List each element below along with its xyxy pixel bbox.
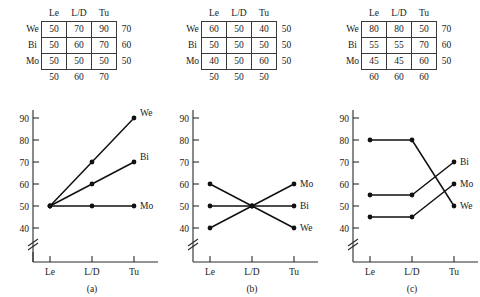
y-tick-group bbox=[353, 118, 359, 228]
chart-c-svg: 90 80 70 60 50 40 Le L/D Tu bbox=[320, 100, 480, 297]
contingency-table-b: Le L/D Tu We 60 50 40 50 Bi 50 50 50 bbox=[184, 6, 296, 85]
col-header: Le bbox=[42, 6, 67, 22]
row-total: 50 bbox=[277, 22, 297, 38]
table-total-row: 50 60 70 bbox=[24, 70, 136, 86]
table-cell: 50 bbox=[412, 22, 437, 38]
x-tick-group bbox=[210, 256, 294, 262]
data-point bbox=[410, 138, 415, 143]
corner-cell bbox=[344, 6, 362, 22]
data-point bbox=[452, 182, 457, 187]
y-tick-label: 60 bbox=[20, 180, 30, 190]
col-header: Tu bbox=[92, 6, 117, 22]
col-header: Le bbox=[362, 6, 387, 22]
table-row: Bi 50 50 50 50 bbox=[184, 38, 296, 54]
y-tick-label: 80 bbox=[20, 136, 30, 146]
x-tick-label: Le bbox=[205, 267, 215, 277]
data-point bbox=[452, 204, 457, 209]
x-tick-group bbox=[50, 256, 134, 262]
data-point bbox=[368, 193, 373, 198]
x-tick-label: L/D bbox=[404, 267, 419, 277]
panel-caption-c: (c) bbox=[407, 284, 418, 295]
data-point bbox=[368, 138, 373, 143]
contingency-table-a: Le L/D Tu We 50 70 90 70 Bi 50 60 70 bbox=[24, 6, 136, 85]
panel-c: Le L/D Tu We 80 80 50 70 Bi 55 55 70 bbox=[320, 0, 480, 297]
row-total: 50 bbox=[277, 54, 297, 70]
col-total: 50 bbox=[227, 70, 252, 86]
table-row: Mo 45 45 60 50 bbox=[344, 54, 456, 70]
row-total-header bbox=[117, 6, 137, 22]
grand-total bbox=[117, 70, 137, 86]
row-label: We bbox=[344, 22, 362, 38]
y-tick-group bbox=[33, 118, 39, 228]
data-point bbox=[452, 160, 457, 165]
table-row: We 60 50 40 50 bbox=[184, 22, 296, 38]
series-end-label-bi: Bi bbox=[140, 152, 149, 162]
table-cell: 50 bbox=[42, 38, 67, 54]
series-end-label-mo: Mo bbox=[460, 179, 473, 189]
x-tick-label: L/D bbox=[84, 267, 99, 277]
table-cell: 70 bbox=[67, 22, 92, 38]
col-total: 60 bbox=[362, 70, 387, 86]
chart-c: 90 80 70 60 50 40 Le L/D Tu bbox=[320, 100, 480, 297]
table-row: Bi 55 55 70 60 bbox=[344, 38, 456, 54]
table-cell: 45 bbox=[362, 54, 387, 70]
grand-total bbox=[437, 70, 457, 86]
x-tick-label: Le bbox=[45, 267, 55, 277]
contingency-table-c-wrapper: Le L/D Tu We 80 80 50 70 Bi 55 55 70 bbox=[320, 6, 480, 85]
table-header-row: Le L/D Tu bbox=[344, 6, 456, 22]
y-tick-label: 50 bbox=[340, 202, 350, 212]
series-end-label-mo: Mo bbox=[140, 201, 153, 211]
y-tick-label: 40 bbox=[180, 224, 190, 234]
table-cell: 50 bbox=[227, 22, 252, 38]
table-cell: 50 bbox=[92, 54, 117, 70]
row-label: Mo bbox=[344, 54, 362, 70]
y-tick-label: 70 bbox=[340, 158, 350, 168]
table-row: We 80 80 50 70 bbox=[344, 22, 456, 38]
col-total: 50 bbox=[202, 70, 227, 86]
x-tick-label: Tu bbox=[289, 267, 299, 277]
x-tick-label: L/D bbox=[244, 267, 259, 277]
x-tick-group bbox=[370, 256, 454, 262]
row-total: 60 bbox=[437, 38, 457, 54]
table-cell: 70 bbox=[92, 38, 117, 54]
table-cell: 60 bbox=[67, 38, 92, 54]
table-cell: 70 bbox=[412, 38, 437, 54]
y-tick-label: 70 bbox=[180, 158, 190, 168]
table-row: Mo 50 50 50 50 bbox=[24, 54, 136, 70]
y-tick-group bbox=[193, 118, 199, 228]
table-cell: 50 bbox=[227, 54, 252, 70]
y-tick-label: 60 bbox=[340, 180, 350, 190]
data-point bbox=[368, 215, 373, 220]
col-total: 50 bbox=[252, 70, 277, 86]
table-cell: 80 bbox=[362, 22, 387, 38]
series-end-label-we: We bbox=[300, 223, 312, 233]
data-point bbox=[410, 193, 415, 198]
chart-b-svg: 90 80 70 60 50 40 Le L/D Tu bbox=[160, 100, 320, 297]
data-point bbox=[292, 226, 297, 231]
table-cell: 50 bbox=[67, 54, 92, 70]
table-cell: 50 bbox=[42, 54, 67, 70]
col-header: Tu bbox=[252, 6, 277, 22]
data-point bbox=[132, 204, 137, 209]
row-label: We bbox=[184, 22, 202, 38]
col-header: Le bbox=[202, 6, 227, 22]
data-point bbox=[90, 182, 95, 187]
chart-b: 90 80 70 60 50 40 Le L/D Tu bbox=[160, 100, 320, 297]
col-total: 70 bbox=[92, 70, 117, 86]
table-cell: 40 bbox=[202, 54, 227, 70]
col-total: 50 bbox=[42, 70, 67, 86]
corner-cell bbox=[24, 6, 42, 22]
corner-cell bbox=[184, 70, 202, 86]
row-total: 50 bbox=[437, 54, 457, 70]
panel-a: Le L/D Tu We 50 70 90 70 Bi 50 60 70 bbox=[0, 0, 160, 297]
col-total: 60 bbox=[67, 70, 92, 86]
table-cell: 40 bbox=[252, 22, 277, 38]
corner-cell bbox=[184, 6, 202, 22]
grand-total bbox=[277, 70, 297, 86]
data-point bbox=[90, 204, 95, 209]
col-total: 60 bbox=[412, 70, 437, 86]
table-cell: 55 bbox=[387, 38, 412, 54]
table-total-row: 50 50 50 bbox=[184, 70, 296, 86]
data-point bbox=[132, 116, 137, 121]
series-end-label-bi: Bi bbox=[300, 201, 309, 211]
